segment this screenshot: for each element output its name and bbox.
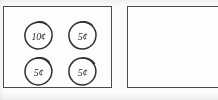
coin-nickel[interactable]: 5¢ xyxy=(23,56,54,87)
coin-nickel[interactable]: 5¢ xyxy=(67,56,98,87)
coin-value: 5¢ xyxy=(78,31,87,41)
coin-worksheet-scan: 10¢ 5¢ 5¢ 5¢ xyxy=(0,0,218,100)
coin-dime[interactable]: 10¢ xyxy=(23,20,54,51)
coin-value: 5¢ xyxy=(34,67,43,77)
right-coin-box[interactable]: 10¢ 5¢ 1¢ 1¢ 1¢ xyxy=(127,6,218,88)
coin-nickel[interactable]: 5¢ xyxy=(67,20,98,51)
coin-value: 10¢ xyxy=(31,31,45,41)
left-coin-box[interactable]: 10¢ 5¢ 5¢ 5¢ xyxy=(3,6,112,88)
coin-value: 5¢ xyxy=(78,67,87,77)
